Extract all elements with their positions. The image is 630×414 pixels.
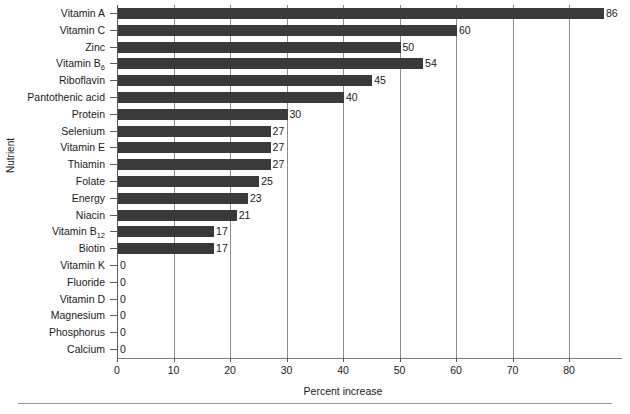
bar-row: Zinc50 [0,39,630,56]
bar [118,8,604,19]
y-tick [110,114,117,115]
category-label: Pantothenic acid [0,89,105,106]
category-label: Vitamin D [0,291,105,308]
bar [118,42,401,53]
y-tick [110,299,117,300]
y-tick [110,198,117,199]
x-tick-20 [230,358,231,362]
bar-value-label: 86 [606,5,618,22]
bar-value-label: 21 [239,207,251,224]
x-tick-0 [117,358,118,362]
x-tick-label-50: 50 [380,364,420,376]
y-tick [110,80,117,81]
bar-row: Thiamin27 [0,156,630,173]
bar-row: Vitamin E27 [0,139,630,156]
y-tick [110,131,117,132]
category-label: Selenium [0,123,105,140]
bar-value-label: 0 [120,324,126,341]
y-tick [110,13,117,14]
bar-value-label: 60 [459,22,471,39]
bar [118,176,259,187]
category-label: Niacin [0,207,105,224]
category-label: Vitamin B6 [0,55,105,72]
bar [118,142,271,153]
category-label: Thiamin [0,156,105,173]
bar-chart: Nutrient 01020304050607080 Vitamin A86Vi… [0,0,630,414]
category-label: Fluoride [0,274,105,291]
x-tick-10 [174,358,175,362]
y-tick [110,63,117,64]
category-label: Calcium [0,341,105,358]
x-tick-label-20: 20 [210,364,250,376]
y-tick [110,47,117,48]
category-label: Phosphorus [0,324,105,341]
bar [118,126,271,137]
y-tick [110,231,117,232]
y-tick [110,181,117,182]
bar-value-label: 0 [120,274,126,291]
bar [118,109,288,120]
category-label: Vitamin K [0,257,105,274]
x-tick-60 [456,358,457,362]
category-label: Vitamin E [0,139,105,156]
x-tick-50 [400,358,401,362]
bar-row: Biotin17 [0,240,630,257]
x-tick-70 [513,358,514,362]
bar-value-label: 0 [120,291,126,308]
bar [118,226,214,237]
y-tick [110,282,117,283]
bar-value-label: 40 [346,89,358,106]
bar [118,159,271,170]
bar-value-label: 17 [216,223,228,240]
bar-row: Protein30 [0,106,630,123]
bar-row: Selenium27 [0,123,630,140]
bar-value-label: 45 [374,72,386,89]
category-label: Zinc [0,39,105,56]
category-label: Vitamin C [0,22,105,39]
y-tick [110,248,117,249]
x-tick-label-80: 80 [549,364,589,376]
bar [118,193,248,204]
bar-value-label: 0 [120,257,126,274]
bar-row: Energy23 [0,190,630,207]
bar-value-label: 23 [250,190,262,207]
x-tick-label-70: 70 [493,364,533,376]
x-tick-30 [287,358,288,362]
bar-value-label: 0 [120,307,126,324]
x-tick-label-0: 0 [97,364,137,376]
x-tick-label-10: 10 [154,364,194,376]
y-tick [110,215,117,216]
bar-row: Phosphorus0 [0,324,630,341]
bar-value-label: 0 [120,341,126,358]
y-tick [110,147,117,148]
bar-value-label: 54 [425,55,437,72]
footer-rule [18,403,612,404]
bar-value-label: 17 [216,240,228,257]
x-axis-title: Percent increase [117,385,569,397]
bar-row: Niacin21 [0,207,630,224]
bar-value-label: 27 [273,123,285,140]
category-label: Energy [0,190,105,207]
bar-row: Magnesium0 [0,307,630,324]
bar-row: Pantothenic acid40 [0,89,630,106]
bar-row: Vitamin C60 [0,22,630,39]
x-tick-80 [569,358,570,362]
category-label: Biotin [0,240,105,257]
bar-row: Folate25 [0,173,630,190]
category-label: Folate [0,173,105,190]
y-tick [110,349,117,350]
y-tick [110,164,117,165]
bar-value-label: 27 [273,139,285,156]
bar [118,210,237,221]
x-tick-label-40: 40 [323,364,363,376]
x-tick-40 [343,358,344,362]
bar-row: Vitamin D0 [0,291,630,308]
y-tick [110,315,117,316]
y-tick [110,97,117,98]
bar-row: Riboflavin45 [0,72,630,89]
bar-row: Vitamin B654 [0,55,630,72]
bar-row: Vitamin A86 [0,5,630,22]
category-label: Vitamin A [0,5,105,22]
bar [118,58,423,69]
bar [118,243,214,254]
